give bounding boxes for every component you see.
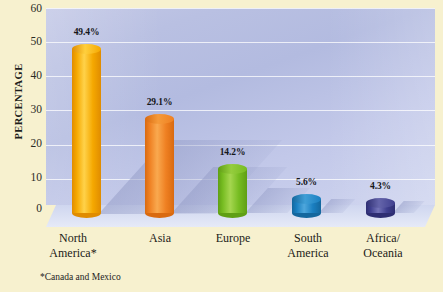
y-tick-60: 60 [2, 3, 42, 13]
category-line-2: America [265, 246, 351, 261]
floor-bevel-right [425, 205, 435, 227]
category-line-1: South [265, 231, 351, 246]
category-line-2: Oceania [340, 246, 426, 261]
category-label-south-america: South America [265, 231, 351, 260]
bar-3[interactable] [218, 164, 247, 213]
y-tick-30: 30 [2, 104, 42, 114]
y-tick-10: 10 [2, 172, 42, 182]
footnote: *Canada and Mexico [40, 272, 121, 282]
cylinder [72, 44, 101, 213]
value-label-1: 49.4% [57, 27, 117, 37]
gridline-20 [46, 145, 435, 146]
gridline-50 [46, 42, 435, 43]
bar-1[interactable] [72, 44, 101, 213]
category-line-2: America* [30, 246, 116, 261]
cylinder-body [218, 169, 247, 213]
value-label-2: 29.1% [130, 97, 190, 107]
cylinder-top [292, 194, 321, 204]
y-tick-50: 50 [2, 36, 42, 46]
bar-chart: PERCENTAGE 60 50 40 30 20 10 0 49.4%29.1… [0, 0, 443, 292]
gridline-60 [46, 8, 435, 9]
gridline-30 [46, 110, 435, 111]
bar-2[interactable] [145, 114, 174, 213]
floor-bevel-left [46, 205, 56, 227]
y-tick-0: 0 [2, 203, 42, 213]
y-tick-20: 20 [2, 138, 42, 148]
category-label-north-america: North America* [30, 231, 116, 260]
cylinder-top [145, 114, 174, 124]
cylinder [292, 194, 321, 213]
y-tick-40: 40 [2, 70, 42, 80]
cylinder-body [145, 119, 174, 213]
value-label-3: 14.2% [203, 147, 263, 157]
category-line-1: North [30, 231, 116, 246]
category-line-1: Europe [190, 231, 276, 246]
cylinder-body [72, 49, 101, 213]
cylinder [145, 114, 174, 213]
value-label-5: 4.3% [351, 181, 411, 191]
category-label-africa-oceania: Africa/ Oceania [340, 231, 426, 260]
cylinder [218, 164, 247, 213]
category-label-europe: Europe [190, 231, 276, 246]
cylinder [366, 198, 395, 213]
gridline-40 [46, 76, 435, 77]
value-label-4: 5.6% [277, 177, 337, 187]
category-line-1: Africa/ [340, 231, 426, 246]
bar-5[interactable] [366, 198, 395, 213]
bar-4[interactable] [292, 194, 321, 213]
